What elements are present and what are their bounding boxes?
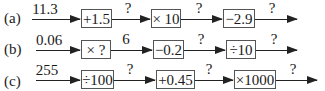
output-value: ? [283, 61, 303, 78]
function-machine-row-a: (a) 11.3 +1.5 ? × 10 ? −2.9 ? [0, 0, 325, 30]
operation-box: ÷100 [81, 70, 114, 89]
operation-box: ×1000 [234, 70, 276, 89]
input-value: 11.3 [30, 1, 60, 18]
output-value: ? [191, 31, 211, 48]
arrow [114, 80, 155, 81]
function-machine-row-c: (c) 255 ÷100 ? +0.45 ? ×1000 ? [0, 61, 325, 91]
arrow [36, 50, 80, 51]
arrow [256, 50, 297, 51]
operation-box: × ? [81, 40, 111, 59]
arrow [195, 80, 233, 81]
operation-box: ÷10 [226, 40, 256, 59]
row-label: (c) [4, 73, 21, 90]
operation-box: +0.45 [156, 70, 195, 89]
row-label: (a) [4, 10, 21, 27]
operation-box: −0.2 [153, 40, 184, 59]
output-value: ? [120, 61, 140, 78]
row-label: (b) [4, 41, 22, 58]
arrow [111, 50, 152, 51]
arrow [255, 19, 297, 20]
input-value: 255 [34, 62, 60, 79]
output-value: 6 [116, 31, 136, 48]
output-value: ? [262, 0, 282, 17]
input-value: 0.06 [34, 32, 64, 49]
operation-box: −2.9 [223, 9, 255, 28]
arrow [36, 80, 80, 81]
function-machine-row-b: (b) 0.06 × ? 6 −0.2 ? ÷10 ? [0, 31, 325, 61]
arrow [276, 80, 317, 81]
output-value: ? [189, 0, 209, 17]
operation-box: × 10 [151, 9, 181, 28]
arrow [32, 19, 80, 20]
arrow [181, 19, 222, 20]
output-value: ? [199, 61, 219, 78]
arrow [112, 19, 150, 20]
output-value: ? [264, 31, 284, 48]
arrow [184, 50, 225, 51]
output-value: ? [118, 0, 138, 17]
operation-box: +1.5 [81, 9, 112, 28]
